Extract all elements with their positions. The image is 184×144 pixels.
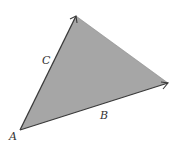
label-b: B: [99, 109, 108, 122]
label-c: C: [42, 54, 51, 67]
label-a: A: [8, 130, 17, 143]
vector-triangle-diagram: C B A: [0, 0, 184, 144]
triangle-fill: [20, 16, 168, 130]
